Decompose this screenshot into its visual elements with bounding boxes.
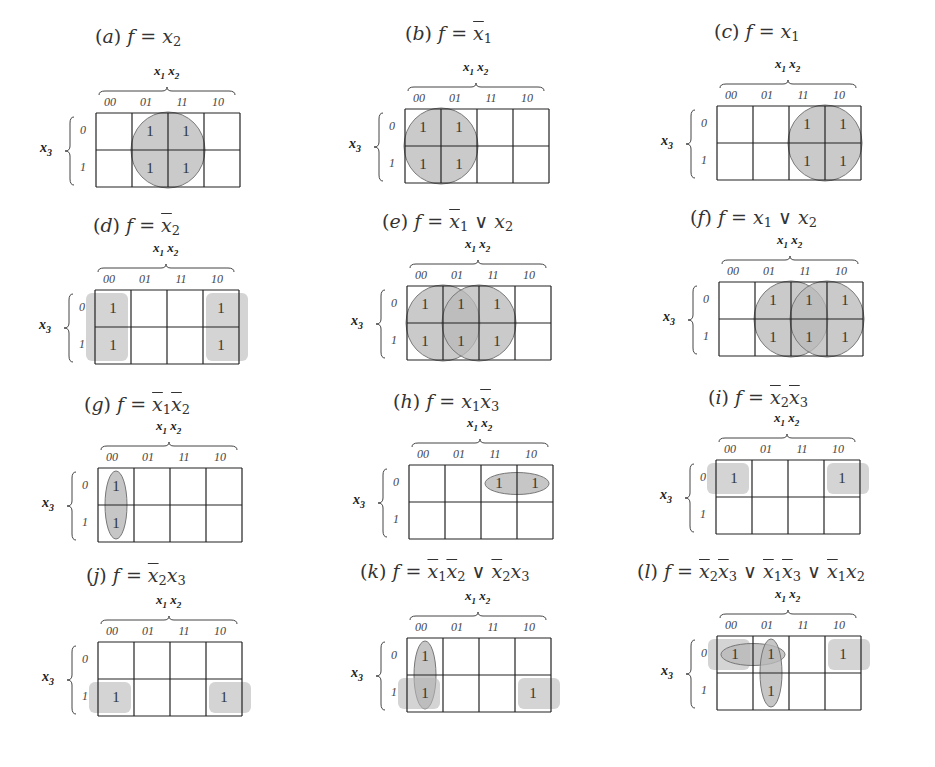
column-code: 00 [713,618,749,633]
column-code: 11 [785,618,821,633]
column-code: 01 [749,618,785,633]
kmap-drawing [0,0,935,767]
kmap-cell-one: 1 [753,636,789,673]
column-code: 10 [821,618,857,633]
row-code: 0 [701,646,707,661]
column-brace-icon [720,610,856,618]
kmap-cell-one: 1 [717,636,753,673]
row-code: 1 [701,683,707,698]
kmap-cell-one: 1 [825,636,861,673]
row-brace-icon [686,640,695,708]
kmap-cell-one: 1 [753,673,789,710]
row-variable-label: x3 [661,663,673,681]
